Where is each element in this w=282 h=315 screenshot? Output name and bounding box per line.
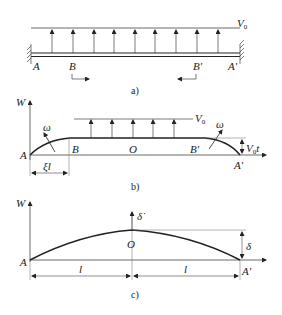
velocity-arrows xyxy=(91,120,174,138)
deformed-beam xyxy=(30,230,240,260)
omega-left-label: ω xyxy=(43,121,51,133)
w-axis-label: W xyxy=(16,96,26,108)
caption-a: a) xyxy=(131,85,139,97)
label-A: A xyxy=(19,149,27,161)
label-B-prime: B′ xyxy=(193,60,203,72)
panel-b: W V0 ω ω V0t ξl A B O B′ xyxy=(16,96,266,193)
dim-left-label: l xyxy=(79,263,82,275)
velocity-arrows xyxy=(52,30,218,53)
caption-b: b) xyxy=(131,181,139,193)
label-A-prime: A′ xyxy=(233,159,244,171)
w-axis-label: W xyxy=(16,197,26,209)
dim-v0t-label: V0t xyxy=(246,142,260,156)
label-A-prime: A′ xyxy=(227,60,238,72)
velocity-label: V0 xyxy=(195,112,206,126)
label-B-prime: B′ xyxy=(190,143,200,155)
dim-right-label: l xyxy=(184,263,187,275)
label-B: B xyxy=(69,60,76,72)
right-fixed-support xyxy=(240,40,244,64)
panel-a: V0 xyxy=(27,17,248,97)
left-fixed-support xyxy=(27,44,31,64)
label-A-prime: A′ xyxy=(241,265,252,277)
hinge-arrow-left xyxy=(178,74,196,79)
caption-c: c) xyxy=(131,289,139,301)
label-O: O xyxy=(129,143,137,155)
delta-dot-label: δ̇ xyxy=(137,210,146,222)
panel-c: W δ̇ δ l l A O A′ c) xyxy=(16,197,266,301)
label-A: A xyxy=(32,60,40,72)
beam-diagram: V0 xyxy=(0,0,282,315)
label-A: A xyxy=(19,256,27,268)
omega-right-label: ω xyxy=(216,118,224,130)
omega-left-arrow xyxy=(44,133,55,152)
dim-xi-l-label: ξl xyxy=(43,160,51,173)
beam xyxy=(31,53,240,57)
label-B: B xyxy=(72,143,79,155)
velocity-label: V0 xyxy=(237,17,248,31)
hinge-arrow-right xyxy=(72,74,89,79)
label-O: O xyxy=(127,238,135,250)
delta-label: δ xyxy=(246,240,252,252)
